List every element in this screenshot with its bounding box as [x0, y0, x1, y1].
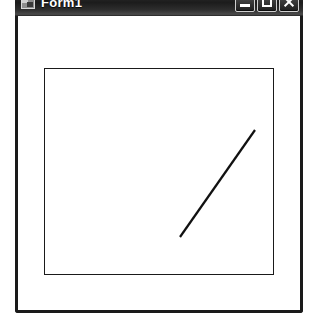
close-icon — [284, 0, 294, 7]
window-controls — [235, 0, 299, 12]
drawing-surface — [18, 16, 300, 310]
form-client-area[interactable] — [18, 16, 300, 310]
window-title: Form1 — [41, 0, 235, 10]
maximize-button[interactable] — [257, 0, 277, 12]
title-bar[interactable]: Form1 — [15, 0, 303, 16]
form-app-icon — [21, 0, 35, 9]
minimize-icon — [240, 4, 250, 7]
minimize-button[interactable] — [235, 0, 255, 12]
close-button[interactable] — [279, 0, 299, 12]
maximize-icon — [262, 0, 272, 7]
drawn-line — [180, 130, 255, 237]
form-window[interactable]: Form1 — [15, 16, 303, 313]
